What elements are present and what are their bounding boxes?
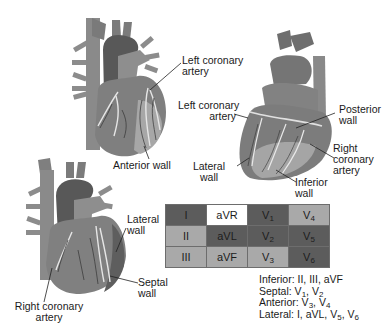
lead-cell-V2: V2	[248, 226, 289, 247]
label-right-coronary-artery-septal-view: Right coronary artery	[9, 301, 89, 323]
label-septal-wall: Septal wall	[138, 277, 168, 299]
legend-lateral: Lateral: I, aVL, V5, V6	[259, 309, 359, 321]
lead-cell-I: I	[166, 205, 207, 226]
lead-cell-V4: V4	[289, 205, 330, 226]
label-left-coronary-artery-posterior: Left coronary artery	[178, 100, 236, 122]
lead-table-row: II aVL V2 V5	[166, 226, 330, 247]
label-left-coronary-artery-anterior: Left coronary artery	[182, 55, 243, 77]
lead-cell-V5: V5	[289, 226, 330, 247]
heart-septal-view	[26, 158, 138, 302]
label-posterior-wall: Posterior wall	[339, 104, 381, 126]
lead-cell-V3: V3	[248, 247, 289, 268]
label-anterior-wall: Anterior wall	[113, 160, 171, 171]
lead-table-row: I aVR V1 V4	[166, 205, 330, 226]
lead-cell-II: II	[166, 226, 207, 247]
heart-anterior-view	[72, 18, 181, 159]
lead-cell-III: III	[166, 247, 207, 268]
ecg-lead-table: I aVR V1 V4 II aVL V2 V5 III aVF V3 V6	[165, 204, 330, 268]
lead-cell-V6: V6	[289, 247, 330, 268]
label-right-coronary-artery-posterior: Right coronary artery	[333, 143, 374, 176]
lead-cell-aVR: aVR	[207, 205, 248, 226]
label-lateral-wall-posterior: Lateral wall	[187, 161, 231, 183]
lead-cell-V1: V1	[248, 205, 289, 226]
heart-posterior-view	[234, 30, 335, 182]
lead-table-row: III aVF V3 V6	[166, 247, 330, 268]
label-inferior-wall: Inferior wall	[295, 177, 328, 199]
lead-cell-aVL: aVL	[207, 226, 248, 247]
label-lateral-wall-septal-view: Lateral wall	[127, 214, 159, 236]
lead-territory-legend: Inferior: II, III, aVF Septal: V1, V2 An…	[259, 274, 359, 320]
lead-cell-aVF: aVF	[207, 247, 248, 268]
